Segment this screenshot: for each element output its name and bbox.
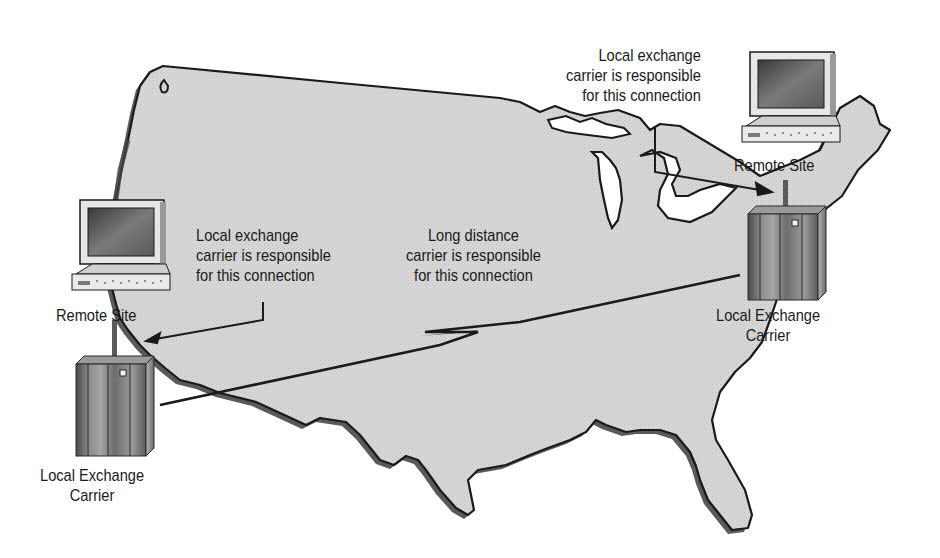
- lec-east-label: Local Exchange Carrier: [716, 306, 820, 346]
- diagram-canvas: Remote Site Local Exchange Carrier Local…: [0, 0, 940, 558]
- switch-cabinet-icon-east: [748, 206, 826, 300]
- computer-icon-west: [72, 200, 170, 290]
- computer-icon-east: [742, 52, 840, 142]
- west-site-link: [112, 320, 117, 360]
- long-distance-callout: Long distance carrier is responsible for…: [406, 226, 541, 286]
- east-site-link: [783, 180, 788, 206]
- west-local-callout: Local exchange carrier is responsible fo…: [196, 226, 331, 286]
- switch-cabinet-icon-west: [76, 356, 154, 456]
- remote-site-west-label: Remote Site: [56, 306, 136, 326]
- remote-site-east-label: Remote Site: [734, 156, 814, 176]
- east-local-callout: Local exchange carrier is responsible fo…: [566, 46, 701, 106]
- lec-west-label: Local Exchange Carrier: [40, 466, 144, 506]
